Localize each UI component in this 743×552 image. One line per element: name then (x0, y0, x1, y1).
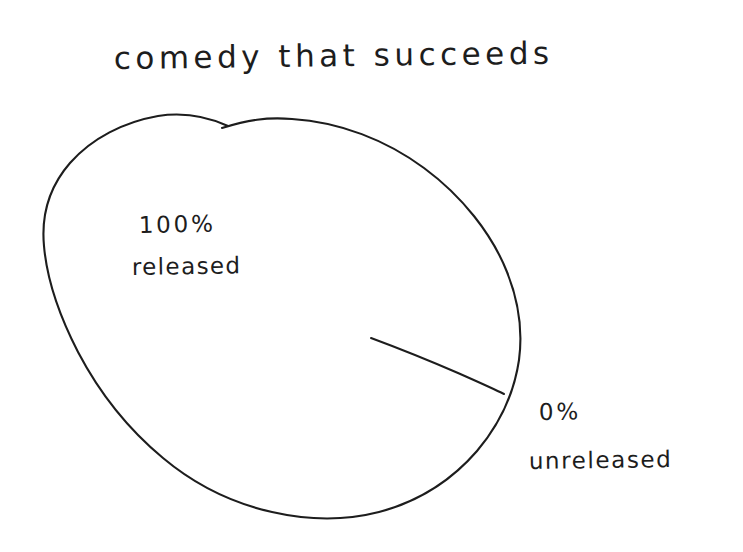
slice-label-unreleased-percent: 0% (539, 398, 582, 425)
pie-chart-canvas: comedy that succeeds 100% released 0% un… (0, 0, 743, 552)
slice-label-released-percent: 100% (138, 210, 215, 238)
pie-outline-circle (43, 114, 520, 518)
slice-label-unreleased-name: unreleased (529, 446, 673, 474)
slice-label-released-name: released (132, 252, 242, 280)
pie-slice-divider-line (371, 338, 504, 394)
